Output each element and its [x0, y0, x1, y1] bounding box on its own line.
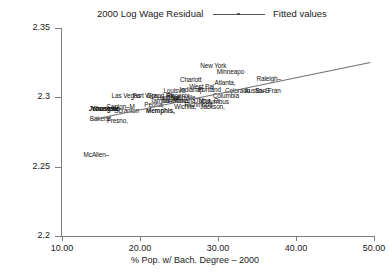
x-tick-label: 20.00	[117, 243, 163, 253]
data-point-label: Wichita,	[174, 102, 196, 109]
x-tick-label: 40.00	[273, 243, 319, 253]
x-tick-label: 30.00	[195, 243, 241, 253]
legend-label-fitted-values: Fitted values	[273, 8, 327, 19]
data-point-label: Jackson,	[200, 102, 224, 109]
x-tick	[218, 236, 219, 241]
data-point-label: Charlott	[180, 76, 202, 83]
y-tick	[55, 97, 61, 98]
y-tick-label: 2.2	[10, 230, 50, 240]
y-tick-label: 2.3	[10, 91, 50, 101]
data-point-label: Minneapo	[217, 67, 244, 74]
x-tick-label: 10.00	[39, 243, 85, 253]
x-tick	[374, 236, 375, 241]
x-axis-title: % Pop. w/ Bach. Degree – 2000	[0, 255, 390, 265]
data-point-label: Fresno,	[107, 116, 128, 123]
y-tick	[55, 167, 61, 168]
x-tick-label: 50.00	[351, 243, 390, 253]
fitted-marker-icon	[237, 13, 240, 16]
chart-title: 2000 Log Wage Residual	[97, 8, 203, 19]
x-tick	[62, 236, 63, 241]
data-point-label: McAllen–	[84, 151, 109, 158]
x-tick	[296, 236, 297, 241]
y-tick-label: 2.25	[10, 161, 50, 171]
data-point-label: San Fran	[255, 87, 281, 94]
data-point-label: Johnstow	[89, 105, 118, 112]
y-tick-label: 2.35	[10, 22, 50, 32]
y-tick	[55, 236, 61, 237]
x-tick	[140, 236, 141, 241]
plot-area: New YorkMinneapoCharlottAtlanta,Raleigh–…	[62, 28, 374, 236]
y-tick	[55, 28, 61, 29]
chart-root: 2000 Log Wage Residual Fitted values 2.3…	[0, 0, 390, 273]
